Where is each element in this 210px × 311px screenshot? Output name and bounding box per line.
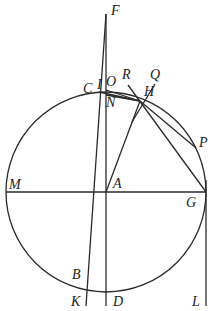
- label-M: M: [9, 178, 21, 192]
- label-A: A: [113, 177, 122, 191]
- label-D: D: [113, 295, 123, 309]
- label-K: K: [71, 295, 80, 309]
- line-AH: [106, 101, 140, 192]
- line-FK: [86, 14, 106, 306]
- geometry-diagram: [0, 0, 210, 311]
- label-G: G: [186, 196, 196, 210]
- label-P: P: [199, 136, 208, 150]
- label-N: N: [106, 96, 115, 110]
- label-H: H: [144, 85, 154, 99]
- label-F: F: [111, 4, 120, 18]
- label-I: I: [97, 78, 102, 92]
- label-L: L: [192, 295, 200, 309]
- label-R: R: [122, 68, 131, 82]
- label-O: O: [106, 75, 116, 89]
- label-C: C: [83, 82, 92, 96]
- label-B: B: [72, 268, 81, 282]
- label-Q: Q: [150, 68, 160, 82]
